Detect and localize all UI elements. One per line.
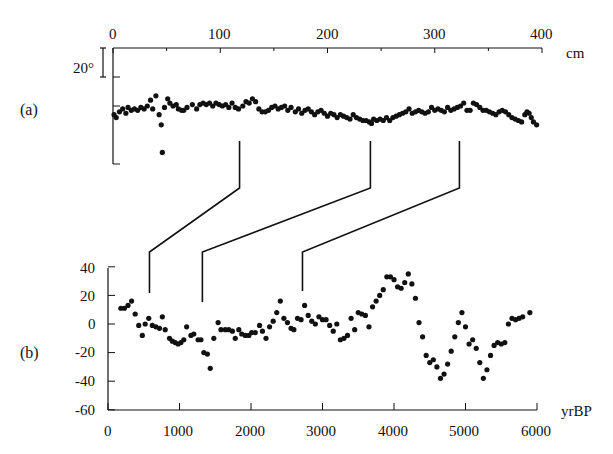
data-point (434, 364, 439, 369)
data-point (520, 314, 525, 319)
data-point (274, 310, 279, 315)
data-point (366, 324, 371, 329)
data-point (463, 324, 468, 329)
data-point (125, 303, 130, 308)
data-point (381, 287, 386, 292)
data-point (377, 293, 382, 298)
data-point (211, 336, 216, 341)
data-point (363, 313, 368, 318)
data-point (226, 105, 231, 110)
data-point (205, 351, 210, 356)
data-point (347, 116, 352, 121)
panel-a-points (111, 93, 539, 155)
data-point (260, 329, 265, 334)
data-point (160, 314, 165, 319)
data-point (424, 353, 429, 358)
data-point (129, 299, 134, 304)
bottom-tick-label: 0 (104, 424, 112, 439)
data-point (157, 326, 162, 331)
data-point (352, 327, 357, 332)
left-tick-label: 20 (80, 289, 95, 304)
panel-b-points (118, 271, 532, 381)
data-point (236, 106, 241, 111)
data-point (391, 277, 396, 282)
correlation-line (202, 141, 370, 302)
data-point (413, 296, 418, 301)
data-point (409, 281, 414, 286)
data-point (190, 102, 195, 107)
data-point (163, 327, 168, 332)
data-point (416, 320, 421, 325)
data-point (327, 323, 332, 328)
data-point (449, 349, 454, 354)
data-point (420, 334, 425, 339)
data-point (426, 109, 431, 114)
bottom-tick-label: 1000 (163, 424, 193, 439)
data-point (198, 337, 203, 342)
data-point (313, 321, 318, 326)
data-point (468, 108, 473, 113)
data-point (148, 98, 153, 103)
scale-bar-label: 20° (73, 61, 94, 76)
bottom-tick-label: 5000 (449, 424, 479, 439)
data-point (278, 299, 283, 304)
correlation-line (149, 141, 239, 293)
data-point (282, 103, 287, 108)
left-tick-label: 0 (88, 317, 96, 332)
data-point (133, 311, 138, 316)
data-point (143, 321, 148, 326)
panel-a-label: (a) (20, 102, 38, 118)
data-point (162, 105, 167, 110)
data-point (438, 376, 443, 381)
data-point (474, 346, 479, 351)
data-point (331, 329, 336, 334)
data-point (477, 360, 482, 365)
data-point (159, 122, 164, 127)
top-tick-label: 400 (530, 27, 553, 42)
panel-b-label: (b) (20, 345, 39, 361)
top-tick-label: 0 (109, 27, 117, 42)
data-point (257, 323, 262, 328)
data-point (302, 303, 307, 308)
data-point (506, 321, 511, 326)
data-point (146, 316, 151, 321)
data-point (216, 320, 221, 325)
data-point (406, 106, 411, 111)
data-point (247, 101, 252, 106)
data-point (461, 101, 466, 106)
data-point (345, 333, 350, 338)
data-point (184, 105, 189, 110)
data-point (160, 150, 165, 155)
data-point (263, 336, 268, 341)
data-point (240, 103, 245, 108)
data-point (445, 361, 450, 366)
data-point (236, 327, 241, 332)
data-point (399, 286, 404, 291)
data-point (502, 340, 507, 345)
data-point (253, 99, 258, 104)
data-point (150, 106, 155, 111)
data-point (442, 109, 447, 114)
data-point (229, 101, 234, 106)
top-tick-label: 200 (316, 27, 339, 42)
bottom-tick-label: 6000 (521, 424, 551, 439)
data-point (527, 310, 532, 315)
data-point (191, 331, 196, 336)
data-point (519, 119, 524, 124)
bottom-tick-label: 3000 (306, 424, 336, 439)
data-point (452, 334, 457, 339)
data-point (208, 366, 213, 371)
data-point (288, 105, 293, 110)
data-point (267, 324, 272, 329)
bottom-tick-label: 2000 (235, 424, 265, 439)
top-tick-label: 300 (423, 27, 446, 42)
data-point (323, 317, 328, 322)
data-point (271, 319, 276, 324)
data-point (470, 337, 475, 342)
data-point (157, 112, 162, 117)
data-point (230, 329, 235, 334)
top-tick-label: 100 (208, 27, 231, 42)
data-point (145, 103, 150, 108)
data-point (488, 353, 493, 358)
data-point (370, 304, 375, 309)
